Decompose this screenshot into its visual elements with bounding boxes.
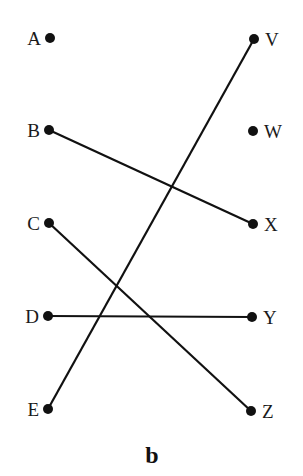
node-dot-b (44, 125, 54, 135)
edges (48, 39, 254, 411)
node-label-y: Y (263, 307, 277, 328)
figure-caption: b (145, 442, 158, 468)
node-dot-z (246, 406, 256, 416)
node-dot-x (248, 219, 258, 229)
node-label-w: W (264, 121, 282, 142)
node-dot-e (43, 404, 53, 414)
node-dot-y (247, 312, 257, 322)
right-nodes: V W X Y Z (246, 29, 282, 422)
edge-d-y (48, 316, 252, 317)
node-label-e: E (27, 399, 39, 420)
edge-b-x (49, 130, 253, 224)
node-label-a: A (27, 28, 41, 49)
node-label-v: V (265, 29, 279, 50)
node-label-x: X (264, 214, 278, 235)
node-dot-a (45, 33, 55, 43)
matching-diagram: A B C D E V W X Y Z b (0, 0, 303, 476)
left-nodes: A B C D E (25, 28, 55, 420)
node-label-c: C (27, 213, 40, 234)
node-dot-v (249, 34, 259, 44)
edge-e-v (48, 39, 254, 409)
node-label-d: D (25, 306, 39, 327)
node-dot-w (248, 126, 258, 136)
node-dot-c (44, 218, 54, 228)
node-dot-d (43, 311, 53, 321)
node-label-b: B (27, 120, 40, 141)
node-label-z: Z (262, 401, 274, 422)
